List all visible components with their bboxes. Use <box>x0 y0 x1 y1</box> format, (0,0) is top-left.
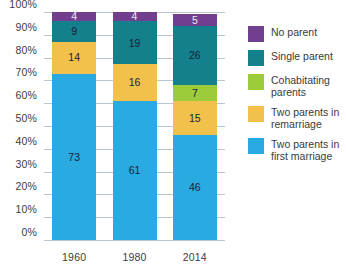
y-axis-tick-50: 50% <box>15 112 37 124</box>
x-axis-tick-1980: 1980 <box>108 251 162 263</box>
y-axis-tick-10: 10% <box>15 203 37 215</box>
bar-segment[interactable]: 4 <box>113 12 157 21</box>
bar-segment-value: 4 <box>132 11 138 22</box>
legend-swatch-icon <box>248 106 264 122</box>
legend-item-label: Single parent <box>271 50 333 63</box>
legend-swatch-icon <box>248 138 264 154</box>
x-axis-tick-1960: 1960 <box>47 251 101 263</box>
y-axis-tick-70: 70% <box>15 66 37 78</box>
legend-item[interactable]: Single parent <box>248 50 344 66</box>
bar-segment[interactable]: 15 <box>173 101 217 135</box>
legend-swatch-icon <box>248 74 264 90</box>
legend-item[interactable]: Two parents in remarriage <box>248 106 344 130</box>
bar-segment[interactable]: 14 <box>52 42 96 74</box>
y-axis-tick-20: 20% <box>15 180 37 192</box>
bar-segment[interactable]: 73 <box>52 74 96 240</box>
bar-segment[interactable]: 4 <box>52 12 96 21</box>
y-axis-tick-80: 80% <box>15 44 37 56</box>
bar-segment[interactable]: 7 <box>173 85 217 101</box>
y-axis-tick-90: 90% <box>15 21 37 33</box>
bar-segment-value: 5 <box>192 15 198 26</box>
legend-item-label: Two parents in first marriage <box>271 138 344 162</box>
bar-segment-value: 4 <box>71 11 77 22</box>
plot-area: 731494611619446157265 <box>44 12 225 240</box>
gridline <box>44 240 225 241</box>
y-axis-tick-40: 40% <box>15 135 37 147</box>
legend-item-label: No parent <box>271 26 317 39</box>
bar-segment-value: 19 <box>129 38 141 49</box>
bar-segment[interactable]: 26 <box>173 26 217 85</box>
bar-segment-value: 46 <box>189 182 201 193</box>
bar-segment[interactable]: 46 <box>173 135 217 240</box>
y-axis-tick-60: 60% <box>15 89 37 101</box>
y-axis-tick-0: 0% <box>21 226 37 238</box>
bar-segment[interactable]: 19 <box>113 21 157 64</box>
y-axis-tick-100: 100% <box>9 0 37 10</box>
legend-item-label: Two parents in remarriage <box>271 106 344 130</box>
stacked-bar-chart: 100%90%80%70%60%50%40%30%20%10%0% 731494… <box>0 0 346 267</box>
bar-1980[interactable]: 6116194 <box>113 12 157 240</box>
x-axis-tick-2014: 2014 <box>168 251 222 263</box>
bar-segment[interactable]: 5 <box>173 14 217 25</box>
bar-segment[interactable]: 61 <box>113 101 157 240</box>
bar-segment[interactable]: 9 <box>52 21 96 42</box>
legend-item[interactable]: Cohabitating parents <box>248 74 344 98</box>
bar-1960[interactable]: 731494 <box>52 12 96 240</box>
chart-legend: No parentSingle parentCohabitating paren… <box>248 26 344 170</box>
legend-item[interactable]: Two parents in first marriage <box>248 138 344 162</box>
bar-segment-value: 15 <box>189 113 201 124</box>
bar-segment-value: 73 <box>68 152 80 163</box>
y-axis-tick-30: 30% <box>15 158 37 170</box>
bar-2014[interactable]: 46157265 <box>173 12 217 240</box>
bar-segment-value: 9 <box>71 26 77 37</box>
bar-segment-value: 14 <box>68 52 80 63</box>
bar-segment-value: 61 <box>129 165 141 176</box>
y-axis-tick-labels: 100%90%80%70%60%50%40%30%20%10%0% <box>0 12 40 240</box>
legend-swatch-icon <box>248 50 264 66</box>
legend-swatch-icon <box>248 26 264 42</box>
legend-item-label: Cohabitating parents <box>271 74 344 98</box>
legend-item[interactable]: No parent <box>248 26 344 42</box>
bar-segment[interactable]: 16 <box>113 64 157 100</box>
bar-segment-value: 7 <box>192 88 198 99</box>
bar-segment-value: 26 <box>189 50 201 61</box>
bar-segment-value: 16 <box>129 77 141 88</box>
